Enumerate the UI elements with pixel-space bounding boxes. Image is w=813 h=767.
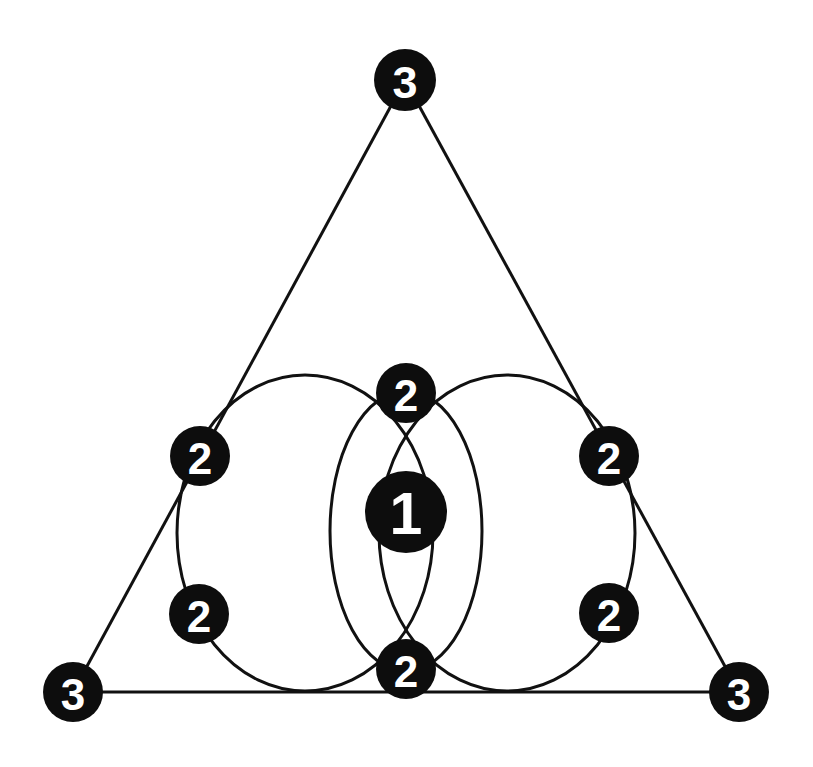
node-label: 2 — [394, 371, 418, 420]
diagram-canvas: 3222122233 — [0, 0, 813, 767]
node-right-upper-2: 2 — [579, 426, 639, 486]
node-top-center-2: 2 — [376, 363, 436, 423]
node-left-upper-2: 2 — [170, 426, 230, 486]
node-label: 1 — [390, 481, 423, 547]
node-label: 2 — [394, 647, 418, 696]
node-label: 2 — [597, 591, 621, 640]
node-bottom-left-3: 3 — [43, 662, 103, 722]
node-label: 2 — [188, 434, 212, 483]
node-label: 2 — [597, 434, 621, 483]
node-label: 2 — [187, 592, 211, 641]
triangle-circles-diagram: 3222122233 — [0, 0, 813, 767]
node-label: 3 — [61, 670, 85, 719]
node-bottom-right-3: 3 — [709, 662, 769, 722]
node-top-3: 3 — [374, 49, 436, 111]
node-label: 3 — [392, 57, 417, 108]
node-label: 3 — [727, 670, 751, 719]
node-right-lower-2: 2 — [579, 583, 639, 643]
node-bottom-center-2: 2 — [376, 639, 436, 699]
node-center-1: 1 — [365, 471, 447, 553]
node-left-lower-2: 2 — [169, 584, 229, 644]
triangle-right-edge — [405, 80, 739, 692]
